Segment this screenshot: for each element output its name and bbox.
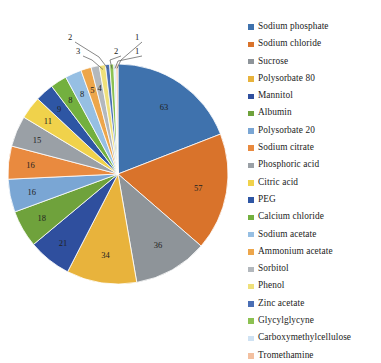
legend-item[interactable]: Glycylglycyne bbox=[248, 312, 381, 329]
pie-slice-value-label: 57 bbox=[194, 183, 203, 193]
legend-item-label: Phenol bbox=[258, 277, 284, 294]
legend-item[interactable]: Albumin bbox=[248, 104, 381, 121]
legend-item-label: Sodium acetate bbox=[258, 226, 316, 243]
legend-color-swatch-icon bbox=[248, 318, 254, 324]
legend-item-label: Citric acid bbox=[258, 174, 298, 191]
legend-item-label: Sorbitol bbox=[258, 260, 289, 277]
pie-callout-value-label: 3 bbox=[76, 46, 80, 56]
pie-slice-value-label: 11 bbox=[44, 116, 52, 126]
legend-color-swatch-icon bbox=[248, 267, 254, 273]
legend-color-swatch-icon bbox=[248, 180, 254, 186]
legend-item[interactable]: Sucrose bbox=[248, 53, 381, 70]
pie-chart-area: 635736342118161615119885432211 bbox=[0, 0, 236, 350]
legend-item[interactable]: Carboxymethylcellulose bbox=[248, 329, 381, 346]
pie-slice-value-label: 5 bbox=[90, 85, 94, 95]
legend-color-swatch-icon bbox=[248, 76, 254, 82]
legend-color-swatch-icon bbox=[248, 94, 254, 100]
pie-slice-value-label: 9 bbox=[57, 104, 61, 114]
legend-color-swatch-icon bbox=[248, 215, 254, 221]
legend-color-swatch-icon bbox=[248, 24, 254, 30]
pie-slice-value-label: 34 bbox=[101, 250, 110, 260]
pie-slice-value-label: 36 bbox=[154, 240, 163, 250]
legend-item-label: Tromethamine bbox=[258, 347, 314, 363]
legend-item[interactable]: Mannitol bbox=[248, 87, 381, 104]
legend-color-swatch-icon bbox=[248, 128, 254, 134]
legend-item[interactable]: Sodium phosphate bbox=[248, 18, 381, 35]
legend-item-label: PEG bbox=[258, 191, 276, 208]
pie-callout-value-label: 1 bbox=[135, 32, 139, 42]
legend-color-swatch-icon bbox=[248, 249, 254, 255]
legend-color-swatch-icon bbox=[248, 42, 254, 48]
legend-color-swatch-icon bbox=[248, 301, 254, 307]
legend-item[interactable]: Sodium chloride bbox=[248, 35, 381, 52]
legend-item[interactable]: Sorbitol bbox=[248, 260, 381, 277]
legend-item-label: Sodium phosphate bbox=[258, 18, 329, 35]
pie-slice-value-label: 16 bbox=[26, 160, 35, 170]
legend-item[interactable]: Tromethamine bbox=[248, 347, 381, 363]
legend-color-swatch-icon bbox=[248, 232, 254, 238]
legend-color-swatch-icon bbox=[248, 336, 254, 342]
legend-color-swatch-icon bbox=[248, 59, 254, 65]
legend-item-label: Polysorbate 80 bbox=[258, 70, 315, 87]
legend-item[interactable]: Citric acid bbox=[248, 174, 381, 191]
pie-slice-value-label: 8 bbox=[68, 95, 72, 105]
legend-item[interactable]: Zinc acetate bbox=[248, 295, 381, 312]
legend-color-swatch-icon bbox=[248, 145, 254, 151]
pie-slice-value-label: 4 bbox=[98, 83, 103, 93]
pie-callout-value-label: 2 bbox=[68, 32, 72, 42]
legend-item-label: Zinc acetate bbox=[258, 295, 304, 312]
pie-slice-value-label: 16 bbox=[28, 187, 37, 197]
pie-slice-value-label: 21 bbox=[59, 238, 68, 248]
legend-item[interactable]: PEG bbox=[248, 191, 381, 208]
pie-slice-value-label: 8 bbox=[80, 89, 84, 99]
pie-callout-value-label: 2 bbox=[114, 46, 118, 56]
legend-color-swatch-icon bbox=[248, 284, 254, 290]
legend-item[interactable]: Sodium acetate bbox=[248, 226, 381, 243]
chart-legend: Sodium phosphateSodium chlorideSucrosePo… bbox=[248, 18, 381, 363]
legend-item-label: Polysorbate 20 bbox=[258, 122, 315, 139]
pie-slice-value-label: 18 bbox=[38, 213, 47, 223]
pie-slice-value-label: 15 bbox=[33, 135, 42, 145]
legend-item-label: Glycylglycyne bbox=[258, 312, 314, 329]
pie-chart-svg: 635736342118161615119885432211 bbox=[0, 0, 236, 350]
legend-item[interactable]: Polysorbate 20 bbox=[248, 122, 381, 139]
legend-item[interactable]: Calcium chloride bbox=[248, 208, 381, 225]
legend-color-swatch-icon bbox=[248, 197, 254, 203]
pie-slice-value-label: 63 bbox=[160, 102, 169, 112]
legend-item-label: Phosphoric acid bbox=[258, 156, 319, 173]
legend-item-label: Ammonium acetate bbox=[258, 243, 333, 260]
legend-color-swatch-icon bbox=[248, 163, 254, 169]
legend-item[interactable]: Sodium citrate bbox=[248, 139, 381, 156]
legend-item-label: Sucrose bbox=[258, 53, 288, 70]
legend-color-swatch-icon bbox=[248, 353, 254, 359]
legend-item-label: Mannitol bbox=[258, 87, 293, 104]
legend-item[interactable]: Polysorbate 80 bbox=[248, 70, 381, 87]
legend-item-label: Calcium chloride bbox=[258, 208, 324, 225]
legend-item-label: Sodium chloride bbox=[258, 35, 321, 52]
legend-item[interactable]: Phenol bbox=[248, 277, 381, 294]
legend-color-swatch-icon bbox=[248, 111, 254, 117]
legend-item-label: Sodium citrate bbox=[258, 139, 314, 156]
legend-item[interactable]: Ammonium acetate bbox=[248, 243, 381, 260]
legend-item-label: Albumin bbox=[258, 104, 292, 121]
legend-item-label: Carboxymethylcellulose bbox=[258, 329, 351, 346]
legend-item[interactable]: Phosphoric acid bbox=[248, 156, 381, 173]
